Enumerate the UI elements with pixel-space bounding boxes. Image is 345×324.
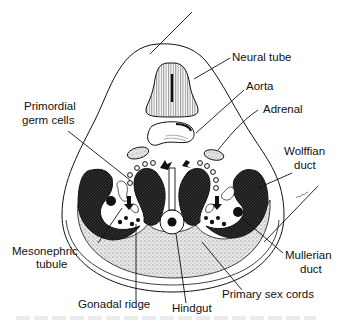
wolffian-duct-right	[233, 207, 243, 217]
wolffian-duct-left	[106, 196, 116, 206]
adrenal-right	[203, 148, 225, 162]
artist-signature	[264, 186, 318, 242]
label-neural-tube: Neural tube	[232, 51, 291, 63]
label-hindgut: Hindgut	[172, 302, 212, 314]
neural-tube	[146, 63, 198, 117]
adrenal-left	[126, 145, 150, 161]
label-wolffian-duct: Wolffian	[284, 145, 325, 157]
label-primary-sex-cords: Primary sex cords	[222, 288, 314, 300]
label-mullerian-duct: Mullerian	[285, 249, 332, 261]
gonad-left	[134, 168, 165, 225]
label-gonadal-ridge: Gonadal ridge	[78, 298, 150, 310]
label-mesonephric-tubule-2: tubule	[36, 258, 67, 270]
embryo-cross-section-diagram: Neural tube Aorta Adrenal Primordial ger…	[0, 0, 345, 324]
label-aorta: Aorta	[246, 80, 274, 92]
faded-caption-strip	[16, 316, 316, 320]
label-wolffian-duct-2: duct	[294, 159, 317, 171]
label-mullerian-duct-2: duct	[300, 263, 323, 275]
label-adrenal: Adrenal	[263, 103, 303, 115]
label-primordial-germ-cells: Primordial	[24, 100, 76, 112]
label-primordial-germ-cells-2: germ cells	[22, 114, 75, 126]
label-mesonephric-tubule: Mesonephric	[12, 245, 78, 257]
aorta	[148, 122, 194, 146]
